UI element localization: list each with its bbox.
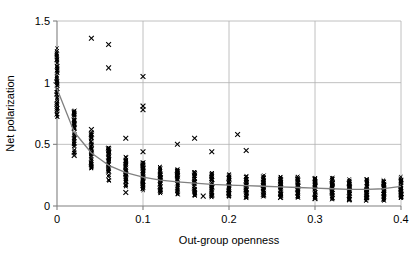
data-point-marker [235, 132, 240, 137]
x-axis-title: Out-group openness [179, 234, 280, 246]
y-tick-label: 1.5 [35, 15, 50, 27]
data-point-marker [244, 148, 249, 153]
data-point-marker [123, 136, 128, 141]
data-point-marker [192, 136, 197, 141]
y-tick-label: 0 [44, 200, 50, 212]
chart-figure: 00.10.20.30.400.511.5Out-group opennessN… [0, 0, 420, 258]
y-tick-label: 0.5 [35, 138, 50, 150]
data-point-marker [106, 65, 111, 70]
y-tick-label: 1 [44, 77, 50, 89]
scatter-plot: 00.10.20.30.400.511.5Out-group opennessN… [0, 0, 420, 258]
x-tick-label: 0.2 [221, 213, 236, 225]
x-tick-label: 0.1 [135, 213, 150, 225]
y-axis-title: Net polarization [4, 75, 16, 151]
data-point-marker [209, 149, 214, 154]
x-tick-label: 0.3 [307, 213, 322, 225]
data-point-marker [89, 36, 94, 41]
x-tick-label: 0.4 [393, 213, 408, 225]
data-point-marker [106, 42, 111, 47]
data-point-marker [201, 194, 206, 199]
x-tick-label: 0 [54, 213, 60, 225]
data-point-marker [123, 190, 128, 195]
